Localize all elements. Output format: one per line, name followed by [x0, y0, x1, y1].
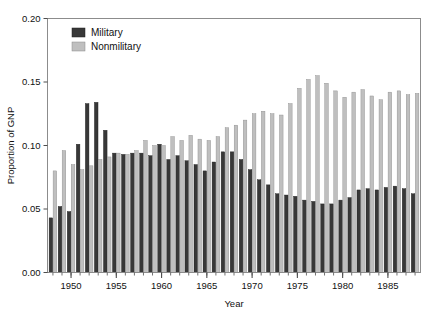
bar-rect	[307, 79, 311, 272]
bar-rect	[294, 196, 298, 272]
bar-rect	[158, 144, 162, 272]
bar-nonmilitary	[261, 111, 265, 272]
bar-nonmilitary	[107, 157, 111, 273]
bar-rect	[402, 189, 406, 273]
bar-military	[194, 165, 198, 273]
legend-label: Military	[91, 27, 123, 38]
bar-rect	[71, 165, 75, 273]
bar-rect	[185, 161, 189, 273]
bar-rect	[316, 76, 320, 273]
bar-military	[239, 159, 243, 272]
x-tick-label: 1970	[242, 280, 263, 291]
y-axis-title: Proportion of GNP	[5, 107, 16, 185]
bar-rect	[221, 152, 225, 273]
bar-military	[230, 152, 234, 273]
bar-rect	[370, 96, 374, 273]
x-tick-label: 1980	[332, 280, 353, 291]
bar-rect	[225, 128, 229, 273]
bar-rect	[361, 90, 365, 273]
bar-rect	[167, 159, 171, 272]
x-tick-label: 1950	[60, 280, 81, 291]
bar-rect	[135, 151, 139, 273]
bar-military	[339, 200, 343, 272]
bar-nonmilitary	[225, 128, 229, 273]
bar-military	[185, 161, 189, 273]
bar-military	[294, 196, 298, 272]
bar-military	[303, 200, 307, 272]
bar-rect	[216, 137, 220, 273]
bar-nonmilitary	[388, 92, 392, 272]
bar-military	[49, 218, 53, 273]
bar-rect	[343, 97, 347, 272]
bar-nonmilitary	[171, 137, 175, 273]
bar-nonmilitary	[62, 151, 66, 273]
x-axis-title: Year	[224, 298, 243, 309]
bar-nonmilitary	[153, 146, 157, 273]
bar-rect	[257, 180, 261, 273]
bar-nonmilitary	[126, 154, 130, 272]
bar-rect	[261, 111, 265, 272]
bar-rect	[384, 187, 388, 272]
bar-rect	[94, 102, 98, 272]
bar-rect	[239, 159, 243, 272]
bar-rect	[49, 218, 53, 273]
y-tick-label: 0.15	[22, 76, 41, 87]
bar-military	[103, 130, 107, 272]
bar-nonmilitary	[116, 153, 120, 272]
bar-rect	[234, 125, 238, 272]
bar-military	[212, 162, 216, 272]
bar-military	[221, 152, 225, 273]
bar-rect	[379, 100, 383, 273]
bar-nonmilitary	[234, 125, 238, 272]
bar-nonmilitary	[207, 140, 211, 272]
bar-military	[266, 185, 270, 273]
bar-rect	[140, 153, 144, 272]
bar-nonmilitary	[316, 76, 320, 273]
bar-nonmilitary	[361, 90, 365, 273]
bar-rect	[144, 140, 148, 272]
bar-rect	[162, 146, 166, 273]
bar-rect	[348, 198, 352, 273]
bar-rect	[149, 156, 153, 273]
bar-military	[203, 171, 207, 273]
bar-military	[140, 153, 144, 272]
bar-rect	[116, 153, 120, 272]
bar-nonmilitary	[343, 97, 347, 272]
bar-rect	[113, 153, 117, 272]
bar-military	[330, 204, 334, 273]
bar-rect	[330, 204, 334, 273]
bar-nonmilitary	[243, 120, 247, 272]
bar-chart-canvas: 0.000.050.100.150.20 1950195519601965197…	[0, 0, 433, 315]
bar-nonmilitary	[89, 166, 93, 273]
bar-rect	[375, 190, 379, 273]
x-tick-label: 1960	[151, 280, 172, 291]
bar-military	[402, 189, 406, 273]
bar-rect	[406, 95, 410, 273]
bar-rect	[103, 130, 107, 272]
bar-rect	[122, 154, 126, 272]
bar-rect	[275, 194, 279, 273]
bar-rect	[397, 91, 401, 273]
bar-rect	[285, 195, 289, 272]
bar-military	[393, 186, 397, 272]
bar-military	[285, 195, 289, 272]
bar-nonmilitary	[270, 114, 274, 273]
bar-rect	[266, 185, 270, 273]
bar-rect	[67, 212, 71, 273]
bar-nonmilitary	[406, 95, 410, 273]
bar-rect	[289, 104, 293, 273]
bar-rect	[415, 93, 419, 272]
bar-rect	[58, 206, 62, 272]
chart-figure: 0.000.050.100.150.20 1950195519601965197…	[0, 0, 433, 315]
bar-nonmilitary	[53, 171, 57, 273]
bar-rect	[321, 204, 325, 273]
bar-rect	[248, 170, 252, 273]
bar-nonmilitary	[307, 79, 311, 272]
bar-rect	[131, 153, 135, 272]
bar-rect	[62, 151, 66, 273]
bar-rect	[393, 186, 397, 272]
bar-rect	[53, 171, 57, 273]
bar-nonmilitary	[71, 165, 75, 273]
bar-military	[94, 102, 98, 272]
bar-rect	[303, 200, 307, 272]
